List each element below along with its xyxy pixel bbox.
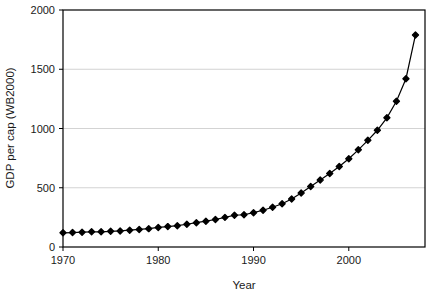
y-axis-tick-label: 1000: [31, 123, 55, 135]
chart-container: 0500100015002000 1970198019902000 Year G…: [0, 0, 434, 296]
x-axis-tick-label: 1990: [241, 254, 265, 266]
y-axis-title: GDP per cap (WB2000): [4, 67, 16, 188]
y-axis-tick-label: 0: [49, 241, 55, 253]
x-axis-tick-label: 2000: [337, 254, 361, 266]
chart-background: [0, 0, 434, 296]
y-axis-tick-label: 500: [37, 182, 55, 194]
gdp-per-capita-line-chart: 0500100015002000 1970198019902000 Year G…: [0, 0, 434, 296]
x-axis-title: Year: [232, 279, 255, 291]
y-axis-tick-label: 2000: [31, 4, 55, 16]
x-axis-tick-label: 1970: [51, 254, 75, 266]
x-axis-tick-label: 1980: [146, 254, 170, 266]
y-axis-tick-label: 1500: [31, 63, 55, 75]
